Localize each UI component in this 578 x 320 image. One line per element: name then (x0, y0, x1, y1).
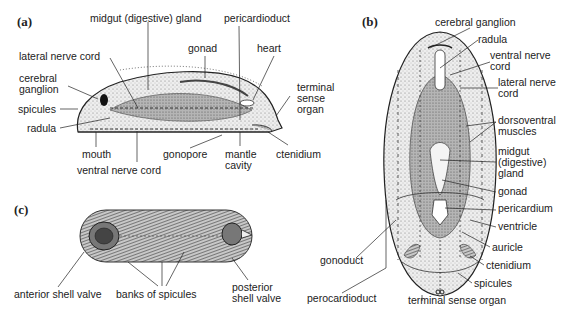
label-a-pericardioduct: pericardioduct (224, 13, 290, 24)
label-c-anterior-shell-valve: anterior shell valve (14, 289, 102, 300)
label-a-ctenidium: ctenidium (276, 149, 321, 160)
diagram-drawing (0, 0, 578, 320)
label-b-gonoduct: gonoduct (320, 255, 363, 266)
label-a-mouth: mouth (82, 149, 111, 160)
label-a-mantle-cavity-2: cavity (225, 160, 252, 171)
label-b-radula: radula (478, 34, 507, 45)
label-b-auricle: auricle (492, 242, 523, 253)
label-b-pericardium: pericardium (498, 203, 553, 214)
label-a-gonad: gonad (188, 43, 217, 54)
label-b-dorsoventral-muscles-2: muscles (498, 126, 537, 137)
label-a-heart: heart (257, 43, 281, 54)
label-a-radula: radula (27, 123, 56, 134)
panel-b-drawing (384, 32, 496, 296)
panel-c-drawing (80, 210, 252, 262)
label-b-perocardioduct: perocardioduct (307, 293, 376, 304)
label-a-terminal-sense-organ-3: organ (297, 104, 324, 115)
label-a-lateral-nerve-cord: lateral nerve cord (19, 51, 100, 62)
label-b-ventral-nerve-cord-2: cord (490, 61, 510, 72)
label-b-spicules: spicules (474, 278, 512, 289)
label-b-ctenidium: ctenidium (486, 260, 531, 271)
panel-label-b: (b) (362, 14, 378, 30)
label-a-midgut-gland: midgut (digestive) gland (90, 13, 201, 24)
label-c-banks-of-spicules: banks of spicules (116, 289, 197, 300)
panel-label-c: (c) (14, 202, 28, 218)
label-b-gonad: gonad (498, 186, 527, 197)
label-b-midgut-gland-3: gland (498, 168, 524, 179)
panel-label-a: (a) (17, 14, 32, 30)
label-c-posterior-shell-valve-2: shell valve (232, 293, 281, 304)
label-a-cerebral-ganglion-2: ganglion (19, 84, 59, 95)
panel-a-drawing (77, 66, 282, 132)
label-a-gonopore: gonopore (163, 149, 207, 160)
label-a-spicules: spicules (18, 104, 56, 115)
label-b-lateral-nerve-cord-2: cord (498, 88, 518, 99)
label-b-ventricle: ventricle (498, 221, 537, 232)
label-a-ventral-nerve-cord: ventral nerve cord (77, 165, 161, 176)
label-b-cerebral-ganglion: cerebral ganglion (435, 17, 516, 28)
label-b-terminal-sense-organ: terminal sense organ (408, 295, 506, 306)
